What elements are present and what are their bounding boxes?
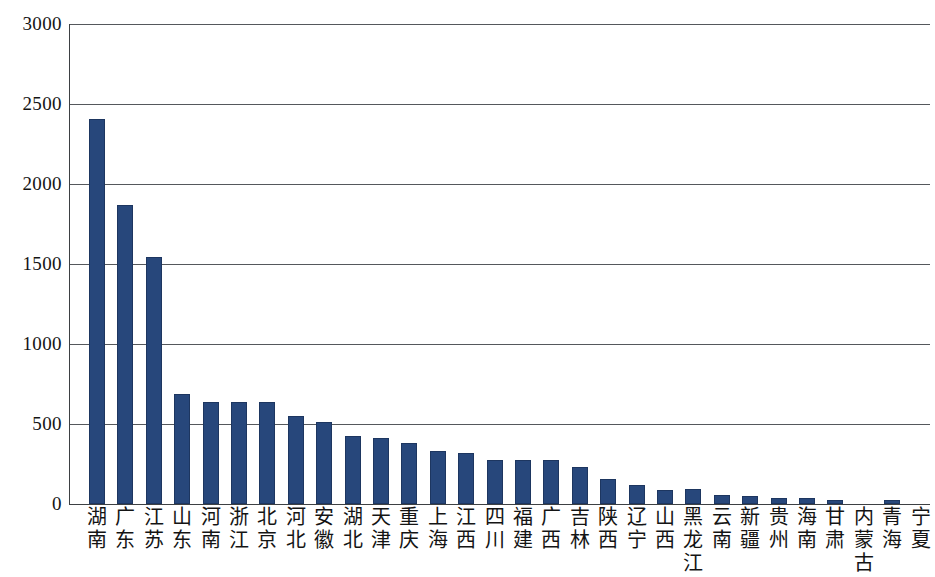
x-tick-label: 内蒙古: [852, 506, 876, 575]
x-tick-label-char: 福: [511, 506, 535, 529]
x-tick-label: 安徽: [312, 506, 336, 552]
x-tick-label-char: 河: [284, 506, 308, 529]
bar: [685, 489, 701, 504]
x-axis-labels: 湖南广东江苏山东河南浙江北京河北安徽湖北天津重庆上海江西四川福建广西吉林陕西辽宁…: [69, 506, 930, 577]
x-tick-label: 甘肃: [823, 506, 847, 552]
x-tick-label: 宁夏: [909, 506, 933, 552]
y-tick-label: 0: [0, 494, 62, 513]
x-tick-label-char: 四: [483, 506, 507, 529]
y-tick-label: 3000: [0, 14, 62, 33]
x-tick-label: 上海: [426, 506, 450, 552]
x-tick-label-char: 庆: [397, 529, 421, 552]
x-tick-label-char: 江: [142, 506, 166, 529]
x-tick-label: 广西: [539, 506, 563, 552]
x-tick-label-char: 安: [312, 506, 336, 529]
bar: [316, 422, 332, 504]
x-tick-label-char: 夏: [909, 529, 933, 552]
y-tick-label: 2500: [0, 94, 62, 113]
x-tick-label: 河北: [284, 506, 308, 552]
x-tick-label-char: 甘: [823, 506, 847, 529]
bar: [487, 460, 503, 504]
x-tick-label: 湖北: [341, 506, 365, 552]
x-tick-label-char: 海: [795, 506, 819, 529]
bar: [657, 490, 673, 504]
x-tick-label: 福建: [511, 506, 535, 552]
x-tick-label-char: 南: [795, 529, 819, 552]
bar: [629, 485, 645, 504]
x-tick-label-char: 吉: [568, 506, 592, 529]
x-tick-label: 山东: [170, 506, 194, 552]
x-tick-label-char: 林: [568, 529, 592, 552]
bar: [458, 453, 474, 504]
x-tick-label: 四川: [483, 506, 507, 552]
x-tick-label-char: 湖: [85, 506, 109, 529]
x-tick-label-char: 江: [227, 529, 251, 552]
x-tick-label-char: 川: [483, 529, 507, 552]
x-tick-label-char: 津: [369, 529, 393, 552]
x-tick-label: 江西: [454, 506, 478, 552]
x-tick-label: 北京: [255, 506, 279, 552]
bar: [742, 496, 758, 504]
x-tick-label-char: 浙: [227, 506, 251, 529]
x-tick-label: 吉林: [568, 506, 592, 552]
x-tick-label-char: 北: [255, 506, 279, 529]
x-tick-label-char: 海: [880, 529, 904, 552]
x-tick-label-char: 南: [85, 529, 109, 552]
x-tick-label: 黑龙江: [681, 506, 705, 575]
x-tick-label: 青海: [880, 506, 904, 552]
x-tick-label-char: 广: [539, 506, 563, 529]
x-tick-label: 浙江: [227, 506, 251, 552]
x-tick-label-char: 新: [738, 506, 762, 529]
bar: [799, 498, 815, 504]
x-tick-label-char: 贵: [767, 506, 791, 529]
x-tick-label: 云南: [710, 506, 734, 552]
x-tick-label-char: 江: [454, 506, 478, 529]
bar: [89, 119, 105, 504]
x-tick-label-char: 东: [113, 529, 137, 552]
axis-baseline: [69, 504, 930, 505]
x-tick-label: 湖南: [85, 506, 109, 552]
x-tick-label-char: 辽: [625, 506, 649, 529]
bar: [572, 467, 588, 504]
x-tick-label-char: 州: [767, 529, 791, 552]
x-tick-label-char: 天: [369, 506, 393, 529]
x-tick-label-char: 海: [426, 529, 450, 552]
y-tick-label: 1000: [0, 334, 62, 353]
x-tick-label: 江苏: [142, 506, 166, 552]
x-tick-label-char: 疆: [738, 529, 762, 552]
bar: [600, 479, 616, 504]
y-axis-labels: 300025002000150010005000: [0, 24, 62, 504]
x-tick-label-char: 内: [852, 506, 876, 529]
bar-series: [69, 24, 930, 504]
x-tick-label-char: 江: [681, 552, 705, 575]
x-tick-label-char: 陕: [596, 506, 620, 529]
x-tick-label-char: 建: [511, 529, 535, 552]
x-tick-label: 陕西: [596, 506, 620, 552]
bar: [146, 257, 162, 504]
bar: [117, 205, 133, 504]
bar: [543, 460, 559, 504]
x-tick-label: 新疆: [738, 506, 762, 552]
bar: [203, 402, 219, 504]
bar: [827, 500, 843, 504]
x-tick-label-char: 南: [199, 529, 223, 552]
bar: [345, 436, 361, 504]
bar: [288, 416, 304, 504]
x-tick-label-char: 南: [710, 529, 734, 552]
x-tick-label-char: 广: [113, 506, 137, 529]
y-tick-label: 2000: [0, 174, 62, 193]
x-tick-label: 河南: [199, 506, 223, 552]
x-tick-label-char: 北: [284, 529, 308, 552]
bar: [174, 394, 190, 504]
x-tick-label-char: 宁: [909, 506, 933, 529]
y-tick-label: 500: [0, 414, 62, 433]
x-tick-label: 重庆: [397, 506, 421, 552]
bar-chart: 300025002000150010005000 湖南广东江苏山东河南浙江北京河…: [0, 0, 935, 577]
bar: [771, 498, 787, 504]
x-tick-label-char: 西: [454, 529, 478, 552]
x-tick-label-char: 东: [170, 529, 194, 552]
x-tick-label-char: 上: [426, 506, 450, 529]
x-tick-label-char: 龙: [681, 529, 705, 552]
bar: [430, 451, 446, 504]
x-tick-label-char: 重: [397, 506, 421, 529]
